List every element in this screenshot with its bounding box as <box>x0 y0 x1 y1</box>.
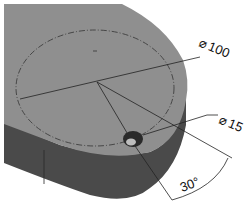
angle-label: 30° <box>178 174 202 195</box>
hole-diameter-label: ⌀15 <box>217 112 245 135</box>
top-face <box>4 4 187 156</box>
hole-inner <box>126 139 136 146</box>
part-drawing: ⌀100 ⌀15 30° <box>0 0 252 211</box>
drawing-svg: ⌀100 ⌀15 30° <box>0 0 252 211</box>
bolt-circle-label: ⌀100 <box>197 35 232 61</box>
